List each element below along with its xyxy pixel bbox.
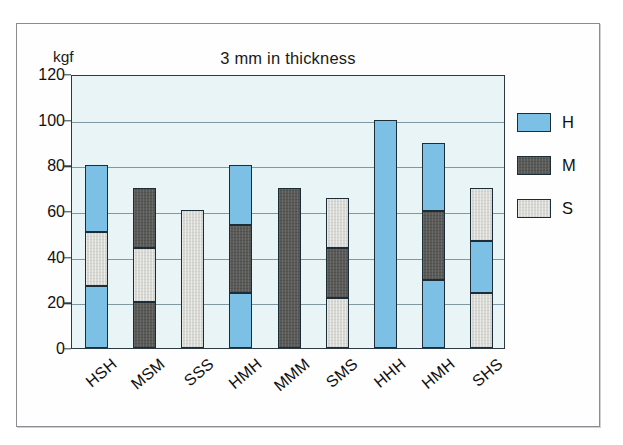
y-tick-mark xyxy=(63,166,71,167)
bar-column[interactable] xyxy=(133,74,156,348)
bar-segment xyxy=(470,241,493,294)
bar-segment xyxy=(374,120,397,348)
legend-item[interactable]: S xyxy=(517,197,597,219)
y-tick-mark xyxy=(63,211,71,212)
y-tick-mark xyxy=(63,348,71,349)
plot-area xyxy=(71,75,505,349)
bar-segment xyxy=(229,165,252,224)
bar-segment xyxy=(229,293,252,348)
bar-column[interactable] xyxy=(85,74,108,348)
bar-segment xyxy=(470,188,493,241)
y-tick-mark xyxy=(63,74,71,75)
legend-item[interactable]: M xyxy=(517,154,597,176)
legend-label: S xyxy=(562,199,573,218)
x-tick-label: SSS xyxy=(180,355,217,390)
bar-segment xyxy=(133,248,156,303)
bar-segment xyxy=(181,210,204,348)
y-axis-unit-label: kgf xyxy=(53,48,74,66)
y-tick-label: 60 xyxy=(21,203,65,221)
y-tick-label: 40 xyxy=(21,249,65,267)
bar-column[interactable] xyxy=(278,74,301,348)
y-tick-label: 80 xyxy=(21,157,65,175)
x-axis-ticks: HSHMSMSSSHMHMMMSMSHHHHMHSHS xyxy=(71,349,505,428)
y-axis-ticks: 020406080100120 xyxy=(17,75,65,349)
legend-label: M xyxy=(562,156,576,175)
legend: HMS xyxy=(517,111,597,240)
legend-swatch-s xyxy=(517,199,551,218)
bar-segment xyxy=(133,188,156,247)
x-tick-label: HMH xyxy=(225,355,265,393)
stacked-bar-chart: 3 mm in thickness kgf 020406080100120 HS… xyxy=(17,24,601,428)
y-tick-label: 20 xyxy=(21,294,65,312)
figure-frame: 3 mm in thickness kgf 020406080100120 HS… xyxy=(16,23,600,427)
bar-segment xyxy=(326,248,349,298)
bar-segment xyxy=(422,211,445,280)
bar-segment xyxy=(470,293,493,348)
legend-item[interactable]: H xyxy=(517,111,597,133)
bar-segment xyxy=(85,165,108,231)
bar-segment xyxy=(85,232,108,287)
legend-swatch-h xyxy=(517,113,551,132)
y-tick-label: 0 xyxy=(21,340,65,358)
x-tick-label: SMS xyxy=(323,355,362,392)
bar-segment xyxy=(326,198,349,247)
legend-swatch-m xyxy=(517,156,551,175)
x-tick-label: HSH xyxy=(83,355,121,391)
chart-title: 3 mm in thickness xyxy=(71,49,505,68)
bar-column[interactable] xyxy=(422,74,445,348)
x-tick-label: MSM xyxy=(128,355,169,393)
bar-column[interactable] xyxy=(374,74,397,348)
bar-column[interactable] xyxy=(470,74,493,348)
bar-segment xyxy=(85,286,108,348)
x-tick-label: HHH xyxy=(371,355,410,392)
bar-segment xyxy=(422,143,445,212)
y-tick-label: 120 xyxy=(21,66,65,84)
y-tick-label: 100 xyxy=(21,112,65,130)
legend-label: H xyxy=(562,113,574,132)
y-tick-mark xyxy=(63,120,71,121)
y-tick-mark xyxy=(63,303,71,304)
bar-column[interactable] xyxy=(326,74,349,348)
x-tick-label: MMM xyxy=(271,355,314,395)
x-tick-label: SHS xyxy=(469,355,506,391)
bar-segment xyxy=(133,302,156,348)
bar-column[interactable] xyxy=(229,74,252,348)
bar-segment xyxy=(326,298,349,348)
bar-column[interactable] xyxy=(181,74,204,348)
bar-segment xyxy=(229,225,252,294)
bar-segment xyxy=(278,188,301,348)
x-tick-label: HMH xyxy=(418,355,458,393)
bar-segment xyxy=(422,280,445,349)
y-tick-mark xyxy=(63,257,71,258)
